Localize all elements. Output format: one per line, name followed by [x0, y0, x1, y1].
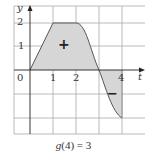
- y-tick-2: 2: [17, 16, 23, 27]
- x-tick-2: 2: [73, 72, 79, 83]
- x-tick-4: 4: [118, 72, 124, 83]
- y-tick-1: 1: [18, 40, 24, 51]
- minus-sign: −: [107, 86, 118, 101]
- caption: g(4) = 3: [0, 139, 147, 151]
- origin-label: 0: [17, 72, 23, 83]
- x-tick-1: 1: [50, 72, 56, 83]
- caption-arg: (4): [61, 139, 74, 151]
- caption-rest: = 3: [74, 139, 91, 151]
- y-axis-label: y: [17, 2, 23, 13]
- t-axis-label: t: [138, 71, 142, 82]
- plus-sign: +: [58, 36, 70, 52]
